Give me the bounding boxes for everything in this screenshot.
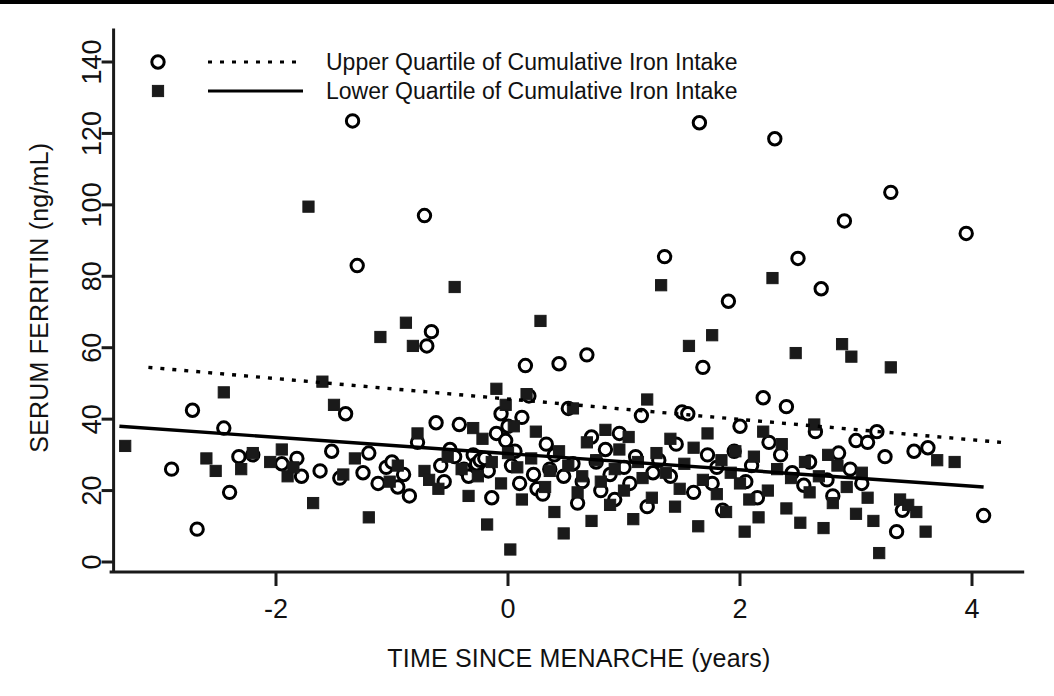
data-point-filled-square [328,399,339,410]
data-point-open-circle [757,392,769,404]
data-point-filled-square [674,483,685,494]
data-point-open-circle [499,434,511,446]
data-point-filled-square [781,503,792,514]
data-point-open-circle [519,359,531,371]
data-point-filled-square [544,465,555,476]
data-point-filled-square [702,428,713,439]
data-point-filled-square [604,499,615,510]
data-point-filled-square [521,389,532,400]
data-point-open-circle [861,436,873,448]
data-point-filled-square [472,471,483,482]
data-point-filled-square [762,485,773,496]
chart-legend: Upper Quartile of Cumulative Iron Intake… [152,49,738,104]
data-point-filled-square [739,526,750,537]
data-point-filled-square [201,453,212,464]
data-point-filled-square [932,455,943,466]
data-point-open-circle [186,404,198,416]
data-point-open-circle [191,523,203,535]
data-point-open-circle [599,443,611,455]
data-point-filled-square [609,464,620,475]
data-point-open-circle [701,449,713,461]
data-point-filled-square [734,478,745,489]
data-point-open-circle [571,497,583,509]
data-point-filled-square [809,419,820,430]
data-point-open-circle [879,450,891,462]
data-point-open-circle [486,492,498,504]
data-point-open-circle [325,445,337,457]
data-point-filled-square [693,521,704,532]
data-point-filled-square [349,453,360,464]
data-point-filled-square [716,455,727,466]
axis-labels-group: 020406080100120140-2024TIME SINCE MENARC… [25,39,980,672]
data-point-filled-square [491,383,502,394]
data-point-open-circle [815,283,827,295]
data-point-filled-square [495,478,506,489]
data-point-filled-square [586,515,597,526]
data-points-group [120,115,990,559]
data-point-filled-square [563,460,574,471]
data-point-filled-square [456,464,467,475]
data-point-open-circle [697,361,709,373]
data-point-filled-square [236,464,247,475]
data-point-filled-square [920,526,931,537]
axes-group [102,28,1025,586]
data-point-open-circle [960,227,972,239]
data-point-filled-square [628,514,639,525]
x-axis-tick-label: -2 [264,594,288,624]
y-axis-tick-label: 60 [77,333,107,363]
data-point-filled-square [558,528,569,539]
data-point-filled-square [120,440,131,451]
data-point-filled-square [468,422,479,433]
y-axis-tick-label: 120 [77,111,107,156]
x-axis-tick-label: 4 [964,594,979,624]
data-point-filled-square [477,433,488,444]
data-point-open-circle [513,477,525,489]
scatter-plot: 020406080100120140-2024TIME SINCE MENARC… [0,0,1054,696]
data-point-open-circle [403,490,415,502]
data-point-open-circle [453,418,465,430]
data-point-filled-square [823,449,834,460]
data-point-open-circle [346,115,358,127]
x-axis-tick-label: 0 [500,594,515,624]
data-point-filled-square [308,497,319,508]
data-point-open-circle [223,486,235,498]
data-point-filled-square [683,340,694,351]
data-point-open-circle [421,340,433,352]
data-point-open-circle [844,463,856,475]
data-point-filled-square [442,451,453,462]
data-point-filled-square [836,339,847,350]
data-point-open-circle [557,470,569,482]
data-point-open-circle [780,400,792,412]
data-point-open-circle [687,486,699,498]
data-point-open-circle [769,133,781,145]
data-point-open-circle [425,325,437,337]
data-point-filled-square [600,424,611,435]
data-point-filled-square [614,444,625,455]
data-point-filled-square [218,387,229,398]
data-point-filled-square [669,501,680,512]
data-point-filled-square [656,280,667,291]
data-point-filled-square [818,522,829,533]
data-point-filled-square [384,476,395,487]
data-point-filled-square [885,362,896,373]
data-point-open-circle [363,447,375,459]
y-axis-tick-label: 80 [77,261,107,291]
data-point-filled-square [795,517,806,528]
data-point-filled-square [363,512,374,523]
data-point-filled-square [665,433,676,444]
trendlines-group [119,367,1001,487]
y-axis-title: SERUM FERRITIN (ng/mL) [25,143,53,453]
data-point-filled-square [577,471,588,482]
data-point-filled-square [841,481,852,492]
data-point-filled-square [449,281,460,292]
data-point-open-circle [922,442,934,454]
data-point-filled-square [412,428,423,439]
data-point-open-circle [357,467,369,479]
data-point-filled-square [303,201,314,212]
figure-container: 020406080100120140-2024TIME SINCE MENARC… [0,0,1054,696]
data-point-filled-square [637,472,648,483]
data-point-filled-square [711,489,722,500]
data-point-open-circle [658,250,670,262]
data-point-filled-square [407,340,418,351]
data-point-open-circle [351,259,363,271]
